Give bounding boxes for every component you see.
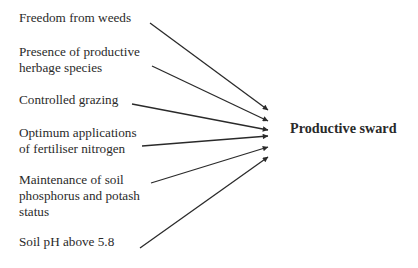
arrow-weeds: [150, 23, 268, 110]
outcome-label: Productive sward: [290, 119, 397, 137]
factor-herbage-species: Presence of productive herbage species: [19, 44, 140, 76]
factor-label: Freedom from weeds: [19, 10, 131, 26]
arrow-grazing: [132, 104, 268, 130]
factor-label: Presence of productive: [19, 44, 140, 60]
arrow-soil-ph: [140, 157, 268, 248]
arrow-herbage: [152, 66, 268, 121]
factor-soil-ph: Soil pH above 5.8: [19, 234, 114, 250]
arrow-nitrogen: [142, 136, 268, 146]
factor-label: status: [19, 204, 140, 220]
factor-label: Soil pH above 5.8: [19, 234, 114, 250]
factor-weeds: Freedom from weeds: [19, 10, 131, 26]
factor-label: phosphorus and potash: [19, 188, 140, 204]
factor-label: herbage species: [19, 60, 140, 76]
arrow-phosphorus-potash: [151, 147, 268, 183]
factor-label: Maintenance of soil: [19, 172, 140, 188]
factor-nitrogen: Optimum applications of fertiliser nitro…: [19, 125, 137, 157]
factor-label: Optimum applications: [19, 125, 137, 141]
factor-label: of fertiliser nitrogen: [19, 141, 137, 157]
factor-grazing: Controlled grazing: [19, 92, 118, 108]
diagram-canvas: Freedom from weeds Presence of productiv…: [0, 0, 418, 268]
factor-label: Controlled grazing: [19, 92, 118, 108]
factor-phosphorus-potash: Maintenance of soil phosphorus and potas…: [19, 172, 140, 220]
